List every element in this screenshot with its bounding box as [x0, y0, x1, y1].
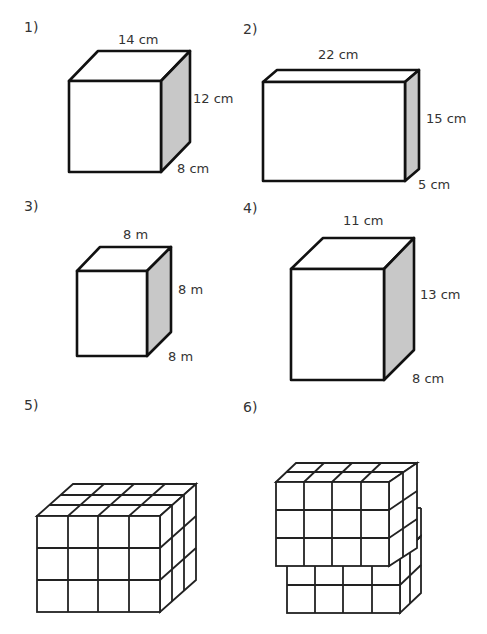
problem-1-prism [69, 51, 190, 172]
problem-6-upper-block [276, 463, 417, 566]
worksheet-figures [0, 0, 487, 634]
problem-2-prism [263, 70, 419, 181]
problem-5-cube-stack [37, 484, 196, 612]
problem-6-cube-stack [276, 463, 421, 613]
problem-3-prism [77, 247, 171, 356]
problem-4-prism [291, 238, 414, 380]
